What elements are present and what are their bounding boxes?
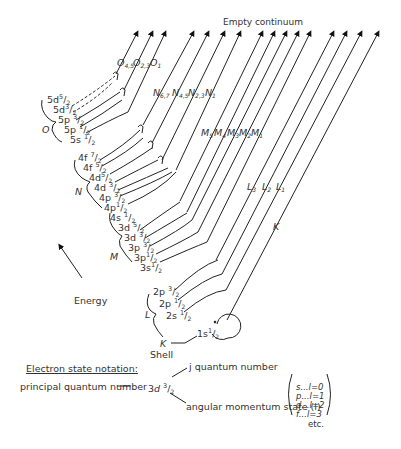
edge-label-l1: L1 xyxy=(276,182,285,193)
principal-quantum-label: principal quantum number xyxy=(20,382,147,392)
subshell-1s12: 1s1/2 xyxy=(197,328,219,340)
edge-label-n45: N4,5 xyxy=(172,88,189,99)
subshell-2s12: 2s 1/2 xyxy=(166,310,191,322)
k-shell-letter: K xyxy=(160,339,166,349)
empty-continuum-title: Empty continuum xyxy=(223,18,303,27)
notation-heading: Electron state notation: xyxy=(26,364,138,374)
edge-label-n23: N2,3 xyxy=(188,88,205,99)
shell-label-n: N xyxy=(75,187,82,197)
edge-label-n1: N1 xyxy=(205,88,216,99)
edge-label-o45: O4,5 xyxy=(117,58,134,69)
shell-label-l: L xyxy=(145,310,150,320)
subshell-5s12: 5s 1/2 xyxy=(70,134,95,146)
notation-example: 3d 3/2 xyxy=(148,383,174,395)
edge-label-k: K xyxy=(273,222,279,232)
edge-label-n67: N6,7 xyxy=(153,88,170,99)
edge-label-m2: M2 xyxy=(239,128,251,139)
edge-label-m4: M4 xyxy=(214,128,226,139)
subshell-3s12: 3s1/2 xyxy=(140,262,162,274)
k-shell-word: Shell xyxy=(150,350,173,360)
edge-label-m5: M5 xyxy=(201,128,213,139)
l-value-etc: etc. xyxy=(308,420,324,429)
edge-label-m3: M3 xyxy=(227,128,239,139)
edge-label-l2: L2 xyxy=(262,182,271,193)
edge-label-o23: O2,3 xyxy=(133,58,150,69)
shell-label-o: O xyxy=(42,125,49,135)
edge-label-o1: O1 xyxy=(150,58,161,69)
energy-label: Energy xyxy=(74,296,107,306)
energy-arrow xyxy=(60,246,82,278)
shell-label-m: M xyxy=(110,252,118,262)
edge-label-l3: L3 xyxy=(247,182,256,193)
j-quantum-label: j quantum number xyxy=(189,362,278,372)
edge-label-m1: M1 xyxy=(251,128,263,139)
l-value-f: f...l=3 xyxy=(296,410,322,419)
